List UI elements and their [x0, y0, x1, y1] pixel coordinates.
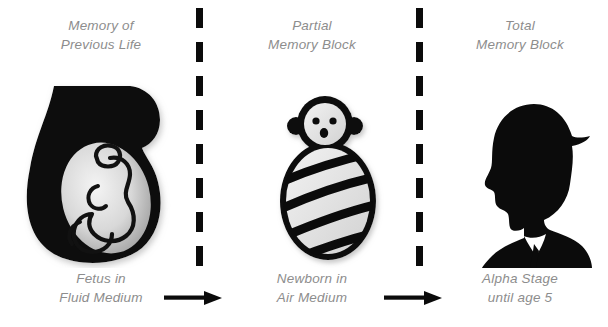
transition-arrow-2	[384, 289, 444, 307]
diagram-canvas: Memory of Previous Life Partial Memory B…	[0, 0, 608, 327]
stage-divider-1	[196, 8, 203, 280]
stage-divider-2	[416, 8, 423, 280]
stage-fetus-bottom-label: Fetus in Fluid Medium	[8, 269, 194, 307]
baby-right-eye	[329, 117, 336, 124]
child-silhouette-icon	[470, 88, 598, 268]
swaddled-newborn-icon	[268, 88, 390, 268]
stage-fetus-top-label: Memory of Previous Life	[8, 16, 194, 54]
baby-left-eye	[312, 117, 319, 124]
womb-fetus-icon	[18, 82, 174, 268]
baby-mouth	[320, 128, 328, 138]
stage-newborn-bottom-label: Newborn in Air Medium	[232, 269, 392, 307]
stage-child-top-label: Total Memory Block	[440, 16, 600, 54]
stage-child-bottom-label: Alpha Stage until age 5	[440, 269, 600, 307]
stage-newborn-top-label: Partial Memory Block	[232, 16, 392, 54]
